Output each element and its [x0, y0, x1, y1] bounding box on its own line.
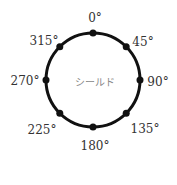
angle-label-90: 90° [147, 75, 168, 89]
point-180 [90, 124, 97, 131]
angle-label-225: 225° [28, 123, 57, 137]
angle-label-270: 270° [11, 74, 40, 88]
angle-label-180: 180° [81, 139, 110, 153]
point-225 [56, 110, 63, 117]
angle-label-135: 135° [131, 122, 160, 136]
point-270 [43, 77, 50, 84]
angle-label-0: 0° [88, 11, 102, 25]
point-90 [137, 77, 144, 84]
center-label: シールド [75, 74, 115, 89]
point-0 [90, 30, 97, 37]
angle-label-45: 45° [132, 35, 153, 49]
point-135 [123, 110, 130, 117]
shield-circle-diagram [0, 0, 177, 185]
point-45 [123, 43, 130, 50]
angle-label-315: 315° [30, 34, 59, 48]
